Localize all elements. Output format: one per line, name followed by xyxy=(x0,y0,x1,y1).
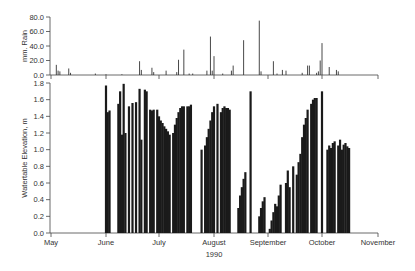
watertable-y-tick-label: 1.0 xyxy=(34,145,44,154)
watertable-bar xyxy=(153,110,155,233)
watertable-bar xyxy=(213,106,215,233)
rain-y-tick-label: 20.0 xyxy=(29,56,44,65)
watertable-bar xyxy=(140,140,142,233)
watertable-y-tick-label: 1.8 xyxy=(34,79,44,88)
watertable-bar xyxy=(131,103,133,233)
watertable-x-ticks: MayJuneJulyAugustSeptemberOctoberNovembe… xyxy=(44,233,396,247)
watertable-bar xyxy=(128,106,130,233)
watertable-bars xyxy=(105,84,350,233)
watertable-bar xyxy=(292,166,294,233)
watertable-bar xyxy=(183,106,185,233)
watertable-y-axis-title: Watertable Elevation, m xyxy=(20,118,29,197)
watertable-bar xyxy=(334,141,336,233)
watertable-bar xyxy=(321,91,323,233)
rain-y-axis-title: mm. Rain xyxy=(20,30,29,62)
watertable-y-tick-label: 1.4 xyxy=(34,112,44,121)
watertable-y-tick-label: 0.4 xyxy=(34,195,44,204)
watertable-bar xyxy=(280,185,282,233)
rainfall-panel: 0.020.040.060.080.0 mm. Rain xyxy=(20,13,378,80)
watertable-bar xyxy=(124,133,126,233)
watertable-y-tick-label: 0.0 xyxy=(34,229,44,238)
watertable-bar xyxy=(190,105,192,233)
month-label: November xyxy=(361,238,396,247)
watertable-bar xyxy=(249,91,251,233)
month-label: July xyxy=(152,238,166,247)
rain-y-tick-label: 60.0 xyxy=(29,27,44,36)
watertable-bar xyxy=(316,98,318,233)
watertable-panel: 0.00.20.40.60.81.01.21.41.61.8 MayJuneJu… xyxy=(20,79,396,260)
watertable-y-tick-label: 0.8 xyxy=(34,162,44,171)
rain-bars xyxy=(56,21,338,75)
rain-watertable-chart: 0.020.040.060.080.0 mm. Rain 0.00.20.40.… xyxy=(0,0,415,271)
x-axis-title-year: 1990 xyxy=(206,250,223,259)
rain-x-ticks xyxy=(51,75,378,79)
watertable-bar xyxy=(135,102,137,233)
month-label: May xyxy=(44,238,58,247)
watertable-y-tick-label: 1.6 xyxy=(34,95,44,104)
month-label: August xyxy=(202,238,226,247)
month-label: October xyxy=(309,238,336,247)
watertable-bar xyxy=(200,150,202,233)
rain-y-tick-label: 80.0 xyxy=(29,13,44,22)
watertable-y-tick-label: 0.2 xyxy=(34,212,44,221)
watertable-y-tick-label: 0.6 xyxy=(34,179,44,188)
month-label: September xyxy=(250,238,287,247)
watertable-y-ticks: 0.00.20.40.60.81.01.21.41.61.8 xyxy=(34,79,50,238)
watertable-bar xyxy=(263,197,265,233)
watertable-bar xyxy=(146,91,148,233)
watertable-bar xyxy=(169,135,171,233)
watertable-bar xyxy=(307,110,309,233)
watertable-bar xyxy=(244,172,246,233)
rain-y-ticks: 0.020.040.060.080.0 xyxy=(29,13,50,80)
watertable-y-tick-label: 1.2 xyxy=(34,129,44,138)
month-label: June xyxy=(98,238,114,247)
watertable-bar xyxy=(216,104,218,233)
rain-y-tick-label: 40.0 xyxy=(29,42,44,51)
watertable-bar xyxy=(348,148,350,233)
watertable-bar xyxy=(289,187,291,233)
watertable-bar xyxy=(229,110,231,233)
watertable-bar xyxy=(108,111,110,234)
